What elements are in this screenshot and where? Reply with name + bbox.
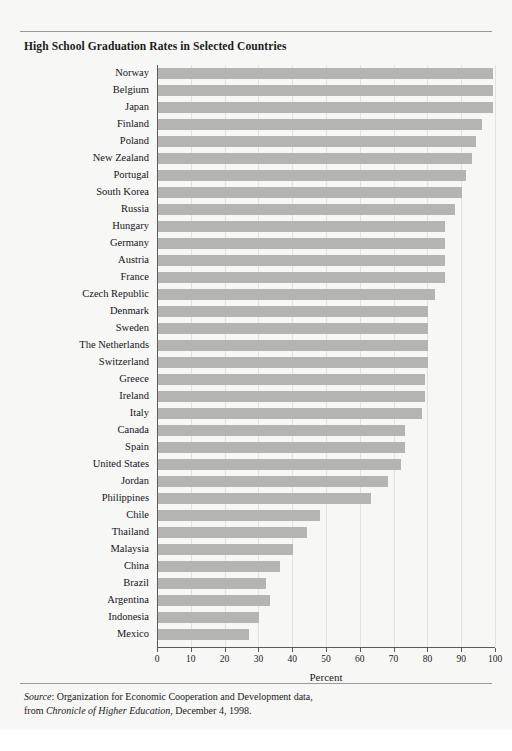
bar-row: Jordan xyxy=(157,473,495,490)
chart-plot-area: 0102030405060708090100 NorwayBelgiumJapa… xyxy=(157,65,495,648)
bar xyxy=(158,612,259,623)
bar xyxy=(158,476,388,487)
bar-row: Thailand xyxy=(157,524,495,541)
bar xyxy=(158,187,462,198)
x-tick-label-30: 30 xyxy=(243,654,273,664)
category-label: Spain xyxy=(9,439,149,454)
category-label: Denmark xyxy=(9,303,149,318)
bar-row: China xyxy=(157,558,495,575)
source-line-2-prefix: from xyxy=(24,705,46,716)
page-title: High School Graduation Rates in Selected… xyxy=(24,40,286,52)
category-label: Russia xyxy=(9,201,149,216)
x-tick-30 xyxy=(258,648,259,652)
bar-row: Norway xyxy=(157,65,495,82)
category-label: Japan xyxy=(9,99,149,114)
category-label: Brazil xyxy=(9,575,149,590)
bar-row: Germany xyxy=(157,235,495,252)
bar-row: Hungary xyxy=(157,218,495,235)
x-tick-80 xyxy=(427,648,428,652)
bar xyxy=(158,323,428,334)
source-note: Source: Organization for Economic Cooper… xyxy=(24,690,464,718)
category-label: Belgium xyxy=(9,82,149,97)
bar-row: France xyxy=(157,269,495,286)
category-label: New Zealand xyxy=(9,150,149,165)
bar xyxy=(158,357,428,368)
x-tick-label-40: 40 xyxy=(277,654,307,664)
category-label: Malaysia xyxy=(9,541,149,556)
category-label: Canada xyxy=(9,422,149,437)
bar-row: South Korea xyxy=(157,184,495,201)
gridline-100 xyxy=(495,65,496,647)
bar xyxy=(158,340,428,351)
bar-row: Canada xyxy=(157,422,495,439)
source-line-1: : Organization for Economic Cooperation … xyxy=(51,691,312,702)
bar xyxy=(158,204,455,215)
x-tick-90 xyxy=(461,648,462,652)
category-label: Hungary xyxy=(9,218,149,233)
bar xyxy=(158,119,482,130)
category-label: Ireland xyxy=(9,388,149,403)
bar xyxy=(158,255,445,266)
category-label: Germany xyxy=(9,235,149,250)
bar-row: Finland xyxy=(157,116,495,133)
bar xyxy=(158,153,472,164)
category-label: Philippines xyxy=(9,490,149,505)
bar xyxy=(158,527,307,538)
bar-row: New Zealand xyxy=(157,150,495,167)
bar xyxy=(158,408,422,419)
category-label: Finland xyxy=(9,116,149,131)
bar xyxy=(158,510,320,521)
category-label: Thailand xyxy=(9,524,149,539)
bar xyxy=(158,136,476,147)
x-tick-0 xyxy=(157,648,158,652)
category-label: The Netherlands xyxy=(9,337,149,352)
bar xyxy=(158,221,445,232)
bar-row: Chile xyxy=(157,507,495,524)
bar-row: Austria xyxy=(157,252,495,269)
x-tick-60 xyxy=(360,648,361,652)
x-tick-70 xyxy=(394,648,395,652)
source-publication: Chronicle of Higher Education xyxy=(46,705,170,716)
bar-row: Switzerland xyxy=(157,354,495,371)
x-tick-40 xyxy=(292,648,293,652)
category-label: South Korea xyxy=(9,184,149,199)
bar xyxy=(158,561,280,572)
bar xyxy=(158,289,435,300)
category-label: Norway xyxy=(9,65,149,80)
bar xyxy=(158,595,270,606)
bar-row: Portugal xyxy=(157,167,495,184)
bar-row: Mexico xyxy=(157,626,495,643)
bar-row: Italy xyxy=(157,405,495,422)
bar-row: Spain xyxy=(157,439,495,456)
bar-row: Czech Republic xyxy=(157,286,495,303)
bar xyxy=(158,442,405,453)
x-tick-100 xyxy=(495,648,496,652)
bar-row: Philippines xyxy=(157,490,495,507)
x-tick-20 xyxy=(225,648,226,652)
bar xyxy=(158,306,428,317)
bar-row: Brazil xyxy=(157,575,495,592)
bar xyxy=(158,272,445,283)
bar-row: Poland xyxy=(157,133,495,150)
bar-row: The Netherlands xyxy=(157,337,495,354)
bar-row: United States xyxy=(157,456,495,473)
bar-row: Indonesia xyxy=(157,609,495,626)
bar-row: Greece xyxy=(157,371,495,388)
bar xyxy=(158,629,249,640)
category-label: Czech Republic xyxy=(9,286,149,301)
bar xyxy=(158,102,493,113)
bar xyxy=(158,238,445,249)
x-tick-label-0: 0 xyxy=(142,654,172,664)
source-rule-bottom xyxy=(20,683,492,684)
bar-row: Belgium xyxy=(157,82,495,99)
source-line-2-suffix: , December 4, 1998. xyxy=(170,705,251,716)
x-tick-label-60: 60 xyxy=(345,654,375,664)
x-tick-label-20: 20 xyxy=(210,654,240,664)
category-label: Sweden xyxy=(9,320,149,335)
bar-row: Sweden xyxy=(157,320,495,337)
bar xyxy=(158,459,401,470)
bar-row: Russia xyxy=(157,201,495,218)
bar xyxy=(158,544,293,555)
category-label: United States xyxy=(9,456,149,471)
bar xyxy=(158,578,266,589)
